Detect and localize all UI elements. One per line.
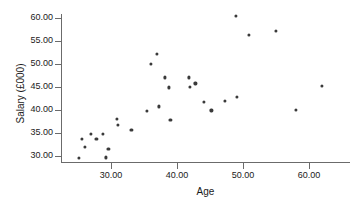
y-axis-tick-label: 60.00 bbox=[30, 13, 53, 22]
y-axis-tick bbox=[55, 18, 61, 19]
y-axis-line bbox=[61, 14, 62, 163]
x-axis-tick bbox=[177, 163, 178, 169]
y-axis-tick-label: 40.00 bbox=[30, 105, 53, 114]
data-point bbox=[83, 146, 86, 149]
data-point bbox=[89, 132, 92, 135]
x-axis-title: Age bbox=[61, 186, 350, 197]
data-point bbox=[157, 105, 160, 108]
data-point bbox=[167, 86, 170, 89]
y-axis-title: Salary (£000) bbox=[15, 34, 26, 154]
scatter-chart: 30.0035.0040.0045.0050.0055.0060.00 30.0… bbox=[0, 0, 356, 209]
data-point bbox=[202, 100, 205, 103]
y-axis-tick bbox=[55, 110, 61, 111]
x-axis-tick bbox=[309, 163, 310, 169]
data-point bbox=[194, 82, 197, 85]
data-point bbox=[80, 137, 83, 140]
y-axis-tick bbox=[55, 64, 61, 65]
x-axis-tick bbox=[111, 163, 112, 169]
data-point bbox=[116, 124, 119, 127]
data-point bbox=[294, 108, 297, 111]
x-axis-tick-label: 50.00 bbox=[232, 171, 255, 180]
data-point bbox=[155, 52, 158, 55]
x-axis-tick-label: 30.00 bbox=[100, 171, 123, 180]
data-point bbox=[247, 33, 250, 36]
y-axis-tick-label: 50.00 bbox=[30, 59, 53, 68]
x-axis-tick-label: 60.00 bbox=[298, 171, 321, 180]
data-point bbox=[234, 14, 237, 17]
y-axis-tick bbox=[55, 41, 61, 42]
data-point bbox=[274, 29, 277, 32]
data-point bbox=[164, 76, 167, 79]
data-point bbox=[130, 128, 133, 131]
data-point bbox=[210, 109, 213, 112]
data-point bbox=[115, 118, 118, 121]
data-point bbox=[224, 100, 227, 103]
data-point bbox=[188, 85, 191, 88]
data-point bbox=[235, 95, 238, 98]
y-axis-tick-label: 45.00 bbox=[30, 82, 53, 91]
x-axis-tick-label: 40.00 bbox=[166, 171, 189, 180]
x-axis-tick bbox=[243, 163, 244, 169]
x-axis-line bbox=[61, 162, 350, 163]
data-point bbox=[107, 147, 110, 150]
y-axis-tick bbox=[55, 156, 61, 157]
y-axis-tick-label: 30.00 bbox=[30, 151, 53, 160]
y-axis-tick bbox=[55, 87, 61, 88]
y-axis-tick-label: 55.00 bbox=[30, 36, 53, 45]
data-point bbox=[169, 118, 172, 121]
data-point bbox=[187, 76, 190, 79]
data-point bbox=[104, 156, 107, 159]
data-point bbox=[77, 156, 80, 159]
data-point bbox=[145, 109, 148, 112]
data-point bbox=[321, 84, 324, 87]
data-point bbox=[101, 132, 104, 135]
y-axis-tick-label: 35.00 bbox=[30, 128, 53, 137]
data-point bbox=[95, 137, 98, 140]
data-point bbox=[150, 62, 153, 65]
y-axis-tick bbox=[55, 133, 61, 134]
